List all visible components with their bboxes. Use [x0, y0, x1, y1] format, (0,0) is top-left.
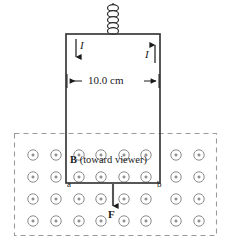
field-dot-row: [28, 194, 204, 204]
field-dot-row: [28, 216, 204, 226]
loop-width-label: 10.0 cm: [88, 75, 123, 86]
figure-canvas: I I 10.0 cm B (toward viewer) a b F: [0, 0, 228, 252]
current-label-left: I: [80, 40, 84, 51]
magnetic-field-caption: (toward viewer): [77, 154, 147, 165]
field-region-border: [15, 134, 217, 236]
current-label-right: I: [145, 49, 149, 60]
force-label: F: [108, 209, 115, 220]
field-dot-row: [28, 172, 204, 182]
magnetic-field-symbol: B: [70, 154, 77, 165]
magnetic-field-label: B (toward viewer): [70, 155, 147, 166]
suspension-spring: [108, 5, 119, 35]
corner-label-b: b: [157, 180, 162, 189]
corner-label-a: a: [67, 180, 71, 189]
